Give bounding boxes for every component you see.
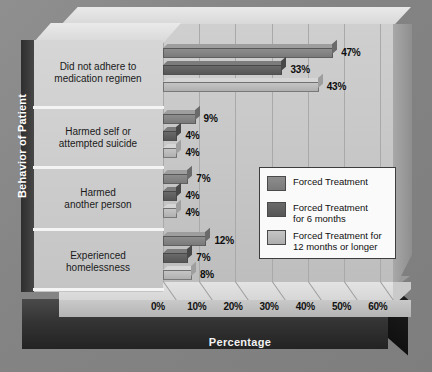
x-tick-label: 30% xyxy=(260,301,279,312)
bar xyxy=(163,131,177,141)
bar-value-label: 47% xyxy=(341,47,360,58)
bar-face xyxy=(163,82,319,92)
category-label: Harmedanother person xyxy=(33,170,163,228)
bar xyxy=(163,253,188,263)
bar-value-label: 4% xyxy=(185,147,199,158)
category-separator xyxy=(33,228,164,231)
bar-value-label: 4% xyxy=(185,130,199,141)
bar-face xyxy=(163,236,206,246)
x-tick-label: 0% xyxy=(151,301,165,312)
bar xyxy=(163,82,319,92)
legend-item[interactable]: Forced Treatment for 12 months or longer xyxy=(267,230,382,252)
category-label: Experiencedhomelessness xyxy=(33,232,163,292)
bar xyxy=(163,148,177,158)
legend-item[interactable]: Forced Treatment for 6 months xyxy=(267,202,368,224)
bar xyxy=(163,236,206,246)
bar xyxy=(163,48,333,58)
chart-figure: 0%10%20%30%40%50%60% Percentage Behavior… xyxy=(0,0,432,372)
legend-label: Forced Treatment xyxy=(293,176,368,187)
legend-swatch xyxy=(267,230,286,245)
legend-label: Forced Treatment for 12 months or longer xyxy=(293,230,382,252)
bar-face xyxy=(163,253,188,263)
bar xyxy=(163,270,192,280)
x-tick-label: 50% xyxy=(332,301,351,312)
category-separator xyxy=(33,288,164,291)
category-separator xyxy=(33,166,164,169)
bar xyxy=(163,65,282,75)
legend-label: Forced Treatment for 6 months xyxy=(293,202,368,224)
x-tick-label: 20% xyxy=(223,301,242,312)
x-tick-label: 10% xyxy=(187,301,206,312)
category-label: Harmed self orattempted suicide xyxy=(33,110,163,166)
category-separator xyxy=(33,106,164,109)
bar xyxy=(163,191,177,201)
bar-face xyxy=(163,270,192,280)
bar-value-label: 4% xyxy=(185,207,199,218)
bar-value-label: 7% xyxy=(196,252,210,263)
bar-value-label: 4% xyxy=(185,190,199,201)
bar xyxy=(163,208,177,218)
legend-swatch xyxy=(267,202,286,217)
legend-item[interactable]: Forced Treatment xyxy=(267,176,368,191)
x-axis-title: Percentage xyxy=(150,336,330,348)
bar-value-label: 12% xyxy=(214,235,233,246)
bar-value-label: 43% xyxy=(327,81,346,92)
bar-value-label: 8% xyxy=(200,269,214,280)
bar-value-label: 9% xyxy=(204,113,218,124)
bar-face xyxy=(163,65,282,75)
category-label: Did not adhere tomedication regimen xyxy=(33,40,163,106)
x-tick-label: 60% xyxy=(368,301,387,312)
bar-face xyxy=(163,48,333,58)
x-tick-label: 40% xyxy=(296,301,315,312)
bar xyxy=(163,174,188,184)
chart-legend: Forced TreatmentForced Treatment for 6 m… xyxy=(259,167,396,259)
bar-value-label: 33% xyxy=(290,64,309,75)
bar-face xyxy=(163,174,188,184)
legend-swatch xyxy=(267,176,286,191)
bar-value-label: 7% xyxy=(196,173,210,184)
